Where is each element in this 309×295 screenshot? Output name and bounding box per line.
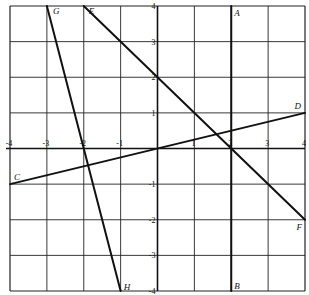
y-tick-label: -1 [149, 180, 156, 189]
point-label-d: D [294, 101, 302, 111]
point-label-g: G [53, 6, 60, 16]
y-tick-label: -4 [149, 287, 156, 295]
x-tick-label: -4 [6, 139, 13, 148]
point-label-c: C [14, 172, 21, 182]
point-label-f: F [296, 222, 303, 232]
y-tick-label: -3 [149, 251, 156, 260]
point-label-e: E [88, 6, 95, 16]
x-tick-label: -1 [116, 139, 123, 148]
x-tick-label: 3 [265, 139, 269, 148]
point-label-b: B [234, 281, 240, 291]
y-tick-label: 3 [152, 38, 156, 47]
point-label-a: A [233, 8, 240, 18]
line-graph: -4-3-2-112344321-1-2-3-4 ABCDEFGH [0, 0, 309, 295]
y-tick-label: 4 [152, 2, 156, 11]
x-tick-label: -3 [43, 139, 50, 148]
y-tick-label: 1 [152, 109, 156, 118]
x-tick-label: 4 [302, 139, 306, 148]
point-label-h: H [123, 282, 131, 292]
y-tick-label: -2 [149, 216, 156, 225]
